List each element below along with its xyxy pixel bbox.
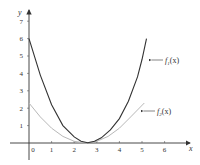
x-tick-3: 3 [95, 146, 99, 154]
f1-label: f1(x) [165, 56, 179, 66]
x-axis-label: x [188, 144, 193, 153]
x-tick-2: 2 [72, 146, 76, 154]
curve-f1 [29, 39, 147, 143]
f2-annotation: f2(x) [144, 107, 172, 117]
axes [10, 10, 190, 160]
f1-annotation: f1(x) [152, 56, 180, 66]
y-tick-1: 1 [20, 122, 24, 130]
y-axis-label: y [17, 8, 22, 17]
y-tick-2: 2 [20, 105, 24, 113]
x-tick-6: 6 [163, 146, 167, 154]
x-tick-1: 1 [50, 146, 54, 154]
x-tick-0: 0 [31, 146, 35, 154]
x-tick-4: 4 [118, 146, 122, 154]
y-tick-7: 7 [20, 18, 24, 26]
y-tick-5: 5 [20, 52, 24, 60]
x-tick-labels: 0 1 2 3 4 5 6 [31, 146, 167, 154]
y-tick-labels: 1 2 3 4 5 6 7 [20, 18, 24, 130]
y-tick-3: 3 [20, 87, 24, 95]
f2-label: f2(x) [157, 107, 171, 117]
y-tick-4: 4 [20, 70, 24, 78]
x-tick-5: 5 [140, 146, 144, 154]
function-plot: 0 1 2 3 4 5 6 x 1 2 3 4 5 6 7 y f1(x) f2… [0, 0, 200, 165]
y-tick-6: 6 [20, 35, 24, 43]
curve-f2 [29, 103, 144, 143]
